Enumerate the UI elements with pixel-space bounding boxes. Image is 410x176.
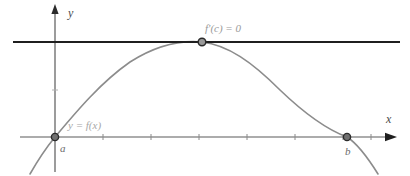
point-c-marker	[198, 38, 206, 46]
y-axis-arrow	[51, 4, 58, 14]
x-axis-label: x	[386, 113, 391, 125]
point-a-marker	[51, 133, 58, 140]
rolles-theorem-figure: y x a b y = f(x) f'(c) = 0	[0, 0, 410, 176]
y-axis-label: y	[68, 7, 73, 19]
function-curve	[30, 42, 378, 174]
point-a-label: a	[60, 143, 66, 154]
tangent-derivative-label: f'(c) = 0	[205, 23, 241, 34]
point-b-label: b	[345, 146, 351, 157]
function-curve-label: y = f(x)	[68, 120, 101, 131]
point-b-marker	[343, 133, 350, 140]
x-axis-arrow	[385, 133, 397, 141]
